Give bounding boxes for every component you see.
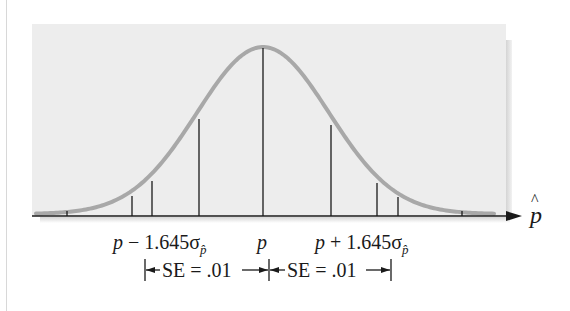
x-axis-arrow-icon bbox=[506, 211, 522, 221]
shaded-panel-shadow bbox=[505, 40, 512, 216]
se-label-right: SE = .01 bbox=[287, 259, 357, 281]
se-label-left: SE = .01 bbox=[162, 259, 232, 281]
axis-label-hat-icon: ^ bbox=[531, 191, 539, 208]
normal-distribution-diagram: p ^ p − 1.645σp̂ p p + 1.645σp̂ SE = .01… bbox=[0, 0, 570, 311]
label-center-p: p bbox=[255, 231, 267, 254]
label-lower-bound: p − 1.645σp̂ bbox=[111, 231, 207, 257]
axis-drop-shadow bbox=[40, 217, 510, 223]
shaded-panel bbox=[32, 24, 506, 216]
label-upper-bound: p + 1.645σp̂ bbox=[313, 231, 409, 257]
